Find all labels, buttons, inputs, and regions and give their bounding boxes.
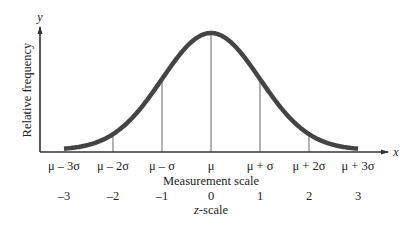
measurement-tick-label: μ + 2σ bbox=[293, 159, 326, 173]
z-tick-label: 2 bbox=[306, 189, 312, 203]
z-tick-label: 3 bbox=[355, 189, 361, 203]
measurement-tick-label: μ bbox=[208, 159, 215, 173]
y-axis-label: Relative frequency bbox=[20, 42, 34, 137]
x-axis-symbol: x bbox=[392, 145, 399, 159]
z-tick-label: 1 bbox=[257, 189, 263, 203]
z-tick-label: –1 bbox=[155, 189, 169, 203]
z-tick-label: 0 bbox=[208, 189, 214, 203]
z-scale-tick-labels: –3–2–10123 bbox=[57, 189, 361, 203]
reference-lines bbox=[113, 34, 309, 152]
measurement-tick-label: μ + 3σ bbox=[342, 159, 375, 173]
measurement-tick-label: μ – 3σ bbox=[48, 159, 80, 173]
z-tick-label: –3 bbox=[57, 189, 71, 203]
measurement-tick-label: μ + σ bbox=[247, 159, 274, 173]
normal-distribution-chart: y x Relative frequency μ – 3σμ – 2σμ – σ… bbox=[0, 0, 418, 229]
measurement-tick-labels: μ – 3σμ – 2σμ – σμμ + σμ + 2σμ + 3σ bbox=[48, 159, 375, 173]
measurement-tick-label: μ – σ bbox=[149, 159, 175, 173]
z-tick-label: –2 bbox=[106, 189, 120, 203]
measurement-tick-label: μ – 2σ bbox=[97, 159, 129, 173]
z-scale-label: z-scale bbox=[193, 203, 228, 217]
x-axis-label: Measurement scale bbox=[163, 174, 260, 188]
y-axis-symbol: y bbox=[36, 10, 43, 24]
